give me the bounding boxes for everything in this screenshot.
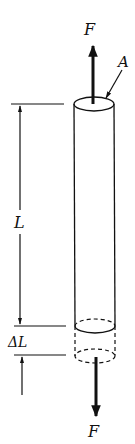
cylinder-bar <box>74 97 115 333</box>
area-label: A <box>116 53 129 71</box>
length-label: L <box>13 213 25 232</box>
original-bottom-edge <box>75 326 115 333</box>
top-force-label: F <box>83 20 96 39</box>
area-leader-arrow <box>106 70 122 98</box>
tension-bar-diagram: F A F L ΔL <box>0 0 135 444</box>
bottom-force-label: F <box>87 422 100 441</box>
elongation-dimension <box>14 355 66 395</box>
elongation-label: ΔL <box>7 334 27 350</box>
